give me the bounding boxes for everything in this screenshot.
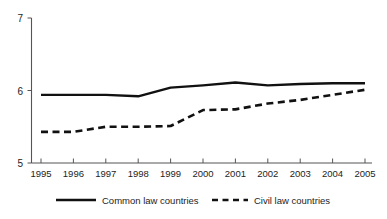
x-tick-label-2001: 2001	[225, 168, 246, 179]
chart-container: 7 6 5 1995199619971998199920002001200220…	[0, 0, 387, 219]
x-tick-label-1996: 1996	[63, 168, 84, 179]
x-tick-label-2003: 2003	[290, 168, 311, 179]
y-tick-label-5: 5	[17, 158, 23, 169]
legend-label-civil-law: Civil law countries	[254, 195, 330, 206]
x-tick-label-1999: 1999	[160, 168, 181, 179]
y-tick-label-7: 7	[17, 13, 23, 24]
line-chart: 7 6 5 1995199619971998199920002001200220…	[0, 0, 387, 219]
x-tick-label-1998: 1998	[128, 168, 149, 179]
x-tick-label-1995: 1995	[30, 168, 51, 179]
x-tick-label-2005: 2005	[354, 168, 375, 179]
x-tick-label-2002: 2002	[257, 168, 278, 179]
x-tick-label-1997: 1997	[95, 168, 116, 179]
legend-label-common-law: Common law countries	[102, 195, 199, 206]
x-tick-label-2000: 2000	[192, 168, 213, 179]
x-tick-label-2004: 2004	[322, 168, 343, 179]
y-tick-label-6: 6	[17, 86, 23, 97]
chart-background	[0, 0, 387, 219]
x-axis-tick-labels: 1995199619971998199920002001200220032004…	[30, 168, 375, 179]
